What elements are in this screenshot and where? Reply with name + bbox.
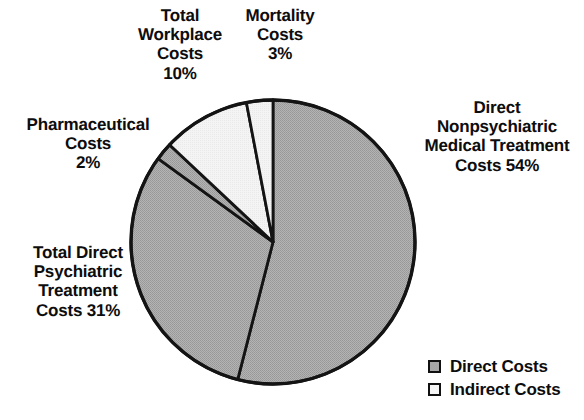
legend-label-direct-costs: Direct Costs bbox=[450, 358, 548, 375]
slice-label-total-workplace-costs: Total Workplace Costs 10% bbox=[118, 6, 242, 83]
slice-label-pharmaceutical-costs: Pharmaceutical Costs 2% bbox=[8, 115, 168, 173]
legend-swatch-indirect-costs bbox=[428, 383, 441, 396]
legend-item-direct-costs: Direct Costs bbox=[428, 355, 578, 377]
legend-item-indirect-costs: Indirect Costs bbox=[428, 378, 578, 400]
chart-legend: Direct Costs Indirect Costs bbox=[428, 355, 578, 401]
legend-label-indirect-costs: Indirect Costs bbox=[450, 381, 561, 398]
legend-swatch-direct-costs bbox=[428, 360, 441, 373]
pie-chart-page: Total Workplace Costs 10% Mortality Cost… bbox=[0, 0, 584, 420]
slice-label-mortality-costs: Mortality Costs 3% bbox=[232, 6, 328, 64]
slice-label-total-direct-psychiatric-treatment-costs: Total Direct Psychiatric Treatment Costs… bbox=[4, 243, 152, 320]
slice-label-direct-nonpsychiatric-medical-treatment-costs: Direct Nonpsychiatric Medical Treatment … bbox=[414, 98, 580, 175]
